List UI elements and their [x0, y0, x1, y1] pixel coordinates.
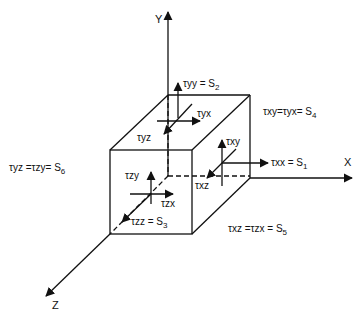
tyz-label: τyz: [137, 133, 151, 143]
tyy-label: τyy = S2: [183, 79, 219, 92]
txz-equality-label: τxz =τzx = S5: [228, 224, 287, 237]
tzy-label: τzy: [125, 171, 139, 181]
z-axis: [46, 234, 110, 296]
x-axis-label: X: [344, 157, 351, 168]
txy-label: τxy: [226, 137, 240, 147]
z-axis-label: Z: [52, 300, 59, 311]
tzx-label: τzx: [161, 199, 175, 209]
tyx-label: τyx: [197, 109, 211, 119]
txx-label: τxx = S1: [271, 158, 307, 171]
tzz-label: τzz = S3: [131, 217, 167, 230]
txy-equality-label: τxy=τyx= S4: [263, 107, 316, 120]
txz-label: τxz: [195, 181, 209, 191]
y-axis-label: Y: [155, 14, 162, 25]
stress-tensor-diagram: Y X Z τyy = S2 τyx τyz τxy=τyx= S4 τxy τ…: [0, 0, 361, 320]
tyz-equality-label: τyz =τzy= S6: [9, 163, 65, 176]
